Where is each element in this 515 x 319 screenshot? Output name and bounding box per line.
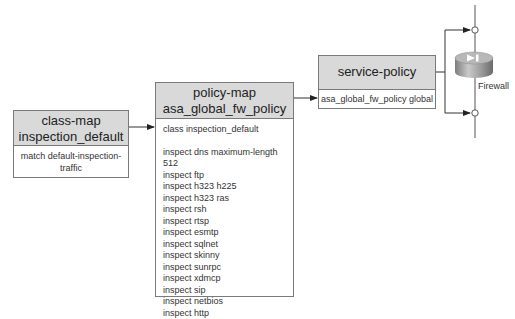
class-map-match: match default-inspection-traffic: [14, 146, 128, 174]
inspect-item: inspect skinny: [163, 250, 293, 262]
inspect-item: inspect netbios: [163, 296, 293, 308]
inspect-item: inspect h323 h225: [163, 181, 293, 193]
interface-point-top: [472, 27, 478, 33]
inspect-item: inspect ftp: [163, 170, 293, 182]
class-map-name: inspection_default: [14, 129, 128, 145]
class-map-title: class-map: [14, 113, 128, 129]
firewall-label: Firewall: [478, 81, 509, 91]
inspect-item: inspect esmtp: [163, 227, 293, 239]
class-map-box: class-map inspection_default match defau…: [13, 110, 129, 178]
inspect-item: inspect sip: [163, 285, 293, 297]
policy-map-title: policy-map: [156, 85, 293, 101]
inspect-item: inspect xdmcp: [163, 273, 293, 285]
firewall-icon: [455, 52, 493, 78]
inspect-item: inspect http: [163, 308, 293, 319]
inspect-item: inspect dns maximum-length 512: [163, 147, 293, 170]
policy-map-header: policy-map asa_global_fw_policy: [156, 83, 293, 119]
policy-map-box: policy-map asa_global_fw_policy class in…: [155, 82, 294, 297]
service-policy-body: asa_global_fw_policy global: [319, 90, 435, 106]
policy-map-class-line: class inspection_default: [163, 124, 293, 136]
inspect-item: inspect sunrpc: [163, 262, 293, 274]
inspect-item: inspect rtsp: [163, 216, 293, 228]
class-map-header: class-map inspection_default: [14, 111, 128, 146]
inspect-item: inspect rsh: [163, 204, 293, 216]
inspect-item: inspect sqlnet: [163, 239, 293, 251]
interface-point-bottom: [472, 110, 478, 116]
policy-map-name: asa_global_fw_policy: [156, 101, 293, 117]
inspect-item: inspect h323 ras: [163, 193, 293, 205]
service-policy-box: service-policy asa_global_fw_policy glob…: [318, 55, 436, 109]
policy-map-body: class inspection_default inspect dns max…: [156, 119, 293, 319]
service-policy-title: service-policy: [319, 56, 435, 90]
